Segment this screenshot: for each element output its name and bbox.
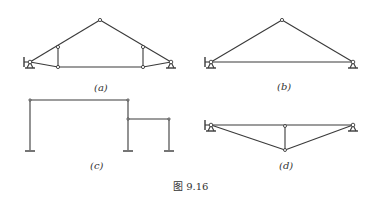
bottom-chord-left [30,62,58,67]
structural-figure: (a) (b) [0,0,379,204]
subfigure-label-a: (a) [94,82,108,93]
bottom-chord-right [143,62,171,67]
hinge-node [56,45,59,48]
roller-support-icon [166,60,176,68]
lower-chord-left [211,125,285,150]
lower-chord-right [285,125,353,150]
top-chord-right [100,20,171,62]
hinge-node [98,18,101,21]
subfigure-label-b: (b) [277,81,291,92]
hinge-node [141,45,144,48]
hinge-node [284,149,287,152]
figure-caption: 图 9.16 [173,181,208,192]
rigid-joint [127,99,129,101]
roller-support-icon [348,123,358,131]
hinge-node [280,18,283,21]
hinge-node [284,125,287,128]
subfigure-d: (d) [205,120,358,171]
rigid-joint [29,99,31,101]
rafter-right [282,20,353,62]
subfigure-c: (c) [25,99,174,171]
subfigure-a: (a) [24,18,176,93]
truss-a-nodes [56,18,144,68]
rafter-left [211,20,282,62]
hinge-node [56,65,59,68]
rigid-joint [127,118,129,120]
hinge-node [141,65,144,68]
subfigure-b: (b) [205,18,358,92]
subfigure-label-c: (c) [90,160,104,171]
rigid-joint [168,118,170,120]
top-chord-left [30,20,100,62]
subfigure-label-d: (d) [279,160,293,171]
truss-a-members [30,20,171,67]
roller-support-icon [348,60,358,68]
